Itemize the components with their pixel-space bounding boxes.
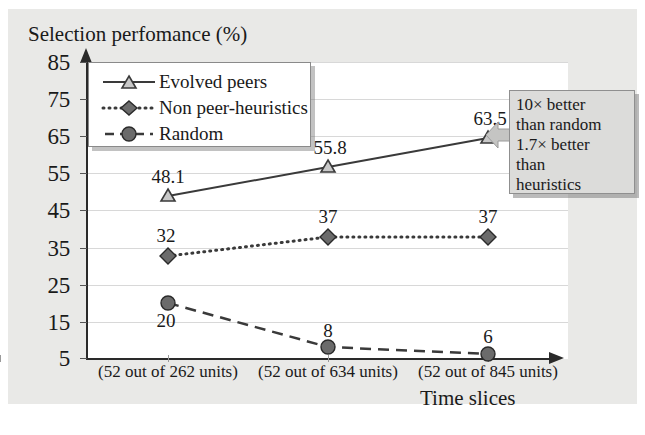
callout-line-5: heuristics [516, 175, 628, 195]
figure-container: 85 75 65 55 45 35 25 15 5 Selection perf… [0, 0, 645, 435]
legend-label-random: Random [159, 123, 223, 145]
x-tick-mark-2b [328, 355, 329, 362]
y-tick-label-35: 35 [26, 236, 70, 262]
y-tick-label-65: 65 [26, 124, 70, 150]
x-tick-mark-1 [168, 355, 169, 362]
legend-label-evolved-peers: Evolved peers [159, 71, 267, 93]
y-tick-label-15: 15 [26, 310, 70, 336]
data-label-non-peer-heuristics-3: 37 [479, 206, 498, 228]
y-tick-mark-85 [80, 62, 87, 63]
legend-item-evolved-peers[interactable]: Evolved peers [89, 69, 310, 95]
y-tick-mark-15 [80, 322, 87, 323]
callout-line-4: than [516, 155, 628, 175]
x-axis-line [86, 358, 551, 360]
y-tick-label-5: 5 [26, 346, 70, 372]
y-tick-mark-35 [80, 248, 87, 249]
x-tick-mark-3 [488, 355, 489, 362]
callout-line-3: 1.7× better [516, 135, 628, 155]
y-tick-mark-5 [80, 358, 87, 359]
y-tick-mark-45 [80, 210, 87, 211]
y-tick-mark-65 [80, 136, 87, 137]
legend-label-non-peer-heuristics: Non peer-heuristics [159, 97, 308, 119]
legend-marker-diamond-icon [101, 99, 157, 117]
y-tick-label-45: 45 [26, 198, 70, 224]
y-tick-mark-55 [80, 173, 87, 174]
data-label-evolved-peers-2: 55.8 [313, 137, 346, 159]
x-tick-label-2: (52 out of 634 units) [258, 362, 398, 382]
x-axis-title: Time slices [420, 386, 515, 411]
callout-better-than: 10× better than random 1.7× better than … [509, 90, 635, 194]
y-axis-arrow-icon [80, 48, 92, 63]
data-label-random-1: 20 [157, 310, 176, 332]
legend-item-non-peer-heuristics[interactable]: Non peer-heuristics [89, 95, 310, 121]
y-tick-mark-25 [80, 285, 87, 286]
data-label-random-2: 8 [323, 320, 333, 342]
x-tick-mark-2 [0, 355, 1, 362]
callout-line-1: 10× better [516, 95, 628, 115]
legend[interactable]: Evolved peers Non peer-heuristics Random [88, 62, 311, 147]
data-label-evolved-peers-1: 48.1 [151, 166, 184, 188]
y-tick-label-85: 85 [26, 50, 70, 76]
data-label-random-3: 6 [483, 326, 493, 348]
data-label-non-peer-heuristics-2: 37 [319, 206, 338, 228]
y-axis-title: Selection perfomance (%) [28, 22, 247, 47]
legend-item-random[interactable]: Random [89, 121, 310, 147]
legend-marker-triangle-icon [101, 73, 157, 91]
data-label-non-peer-heuristics-1: 32 [157, 225, 176, 247]
gridline-35 [88, 248, 568, 249]
y-tick-mark-75 [80, 99, 87, 100]
gridline-25 [88, 285, 568, 286]
y-tick-label-25: 25 [26, 273, 70, 299]
y-tick-label-75: 75 [26, 87, 70, 113]
x-tick-label-1: (52 out of 262 units) [98, 362, 238, 382]
y-tick-label-55: 55 [26, 161, 70, 187]
callout-line-2: than random [516, 115, 628, 135]
legend-marker-circle-icon [101, 125, 157, 143]
x-tick-label-3: (52 out of 845 units) [418, 362, 558, 382]
